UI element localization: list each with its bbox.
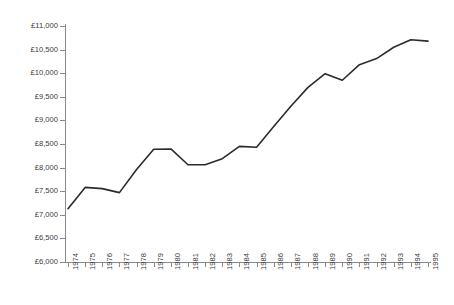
series-line-layer (0, 0, 454, 305)
series-line (68, 40, 428, 209)
line-chart: £11,000£10,500£10,000£9,500£9,000£8,500£… (0, 0, 454, 305)
